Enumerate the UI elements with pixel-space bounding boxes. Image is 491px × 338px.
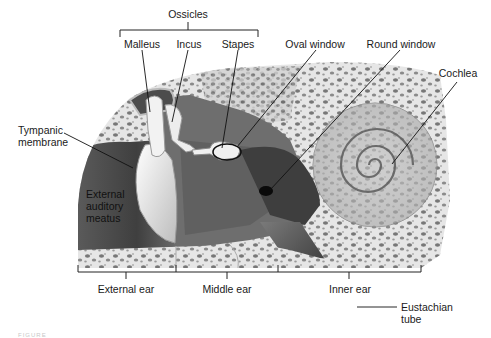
figure-caption: FIGURE <box>18 332 47 338</box>
label-malleus: Malleus <box>124 38 160 50</box>
label-cochlea: Cochlea <box>439 67 478 79</box>
round-window <box>259 186 273 196</box>
label-stapes: Stapes <box>222 38 255 50</box>
ear-anatomy-diagram: Ossicles Malleus Incus Stapes Oval windo… <box>0 0 491 338</box>
label-external-auditory-meatus: External auditory meatus <box>86 188 125 224</box>
label-ossicles: Ossicles <box>168 8 208 20</box>
label-inner-ear: Inner ear <box>329 283 371 295</box>
label-round-window: Round window <box>367 38 436 50</box>
label-eustachian-tube: Eustachian tube <box>401 301 453 325</box>
label-middle-ear: Middle ear <box>202 283 251 295</box>
label-tympanic-membrane: Tympanic membrane <box>18 124 68 148</box>
cochlea <box>313 103 437 227</box>
ossicles-bracket <box>120 22 258 37</box>
label-external-ear: External ear <box>98 283 155 295</box>
label-incus: Incus <box>176 38 201 50</box>
label-oval-window: Oval window <box>285 38 345 50</box>
